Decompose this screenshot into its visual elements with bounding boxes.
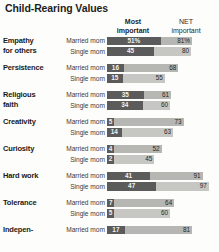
table-row: Married mom1668: [0, 63, 219, 73]
bar-value-net-important: 80: [174, 47, 189, 55]
bar-value-most-important: 47: [107, 182, 156, 190]
bar-track: 764: [107, 199, 174, 208]
bar-track: 3460: [107, 101, 170, 110]
chart-group: Indepen-Married mom1781: [0, 225, 219, 252]
table-row: Married mom3561: [0, 90, 219, 100]
bar-track: 560: [107, 209, 170, 218]
bar-value-net-important: 60: [153, 101, 168, 109]
table-row: Married mom452: [0, 144, 219, 154]
row-label: Single mom: [56, 74, 105, 83]
table-row: Married mom764: [0, 198, 219, 208]
row-label: Single mom: [56, 155, 105, 164]
chart-group: Hard workMarried mom4191Single mom4797: [0, 171, 219, 198]
bar-value-net-important: 81%: [175, 37, 190, 45]
table-row: Single mom1555: [0, 74, 219, 84]
bar-value-most-important: 2: [107, 155, 114, 163]
bar-value-most-important: 45: [107, 47, 154, 55]
table-row: Single mom1463: [0, 128, 219, 138]
bar-value-net-important: 61: [154, 91, 169, 99]
table-row: Married mom573: [0, 117, 219, 127]
column-header-net-important-line1: NET: [160, 18, 212, 27]
bar-track: 4797: [107, 182, 209, 191]
bar-value-most-important: 7: [107, 199, 114, 207]
bar-value-most-important: 14: [107, 128, 122, 136]
bar-value-net-important: 60: [153, 209, 168, 217]
chart-group: ToleranceMarried mom764Single mom560: [0, 198, 219, 225]
chart-group: PersistenceMarried mom1668Single mom1555: [0, 63, 219, 90]
chart-group: Empathyfor othersMarried mom51%81%Single…: [0, 36, 219, 63]
bar-value-most-important: 41: [107, 172, 150, 180]
table-row: Single mom4797: [0, 182, 219, 192]
column-headers: Most important NET important: [0, 18, 219, 38]
bar-value-net-important: 55: [148, 74, 163, 82]
bar-track: 1463: [107, 128, 173, 137]
table-row: Married mom51%81%: [0, 36, 219, 46]
bar-track: 1781: [107, 226, 192, 235]
row-label: Married mom: [56, 90, 105, 99]
row-label: Married mom: [56, 144, 105, 153]
row-label: Married mom: [56, 36, 105, 45]
bar-track: 1555: [107, 74, 165, 83]
bar-track: 4191: [107, 172, 203, 181]
bar-value-net-important: 91: [186, 172, 201, 180]
table-row: Single mom4580: [0, 47, 219, 57]
bar-value-net-important: 68: [161, 64, 176, 72]
column-header-net-important-line2: important: [160, 27, 212, 36]
chart-rows: Empathyfor othersMarried mom51%81%Single…: [0, 36, 219, 252]
bar-value-net-important: 81: [175, 226, 190, 234]
row-label: Single mom: [56, 209, 105, 218]
bar-value-most-important: 34: [107, 101, 143, 109]
bar-track: 245: [107, 155, 154, 164]
row-label: Married mom: [56, 171, 105, 180]
bar-value-net-important: 97: [192, 182, 207, 190]
table-row: Single mom560: [0, 209, 219, 219]
bar-value-net-important: 52: [145, 145, 160, 153]
bar-value-net-important: 64: [157, 199, 172, 207]
table-row: Single mom245: [0, 155, 219, 165]
table-row: Single mom3460: [0, 101, 219, 111]
row-label: Married mom: [56, 225, 105, 234]
chart-group: CreativityMarried mom573Single mom1463: [0, 117, 219, 144]
chart-figure: Child-Rearing Values Most important NET …: [0, 0, 219, 252]
bar-value-net-important: 73: [167, 118, 182, 126]
bar-value-most-important: 15: [107, 74, 123, 82]
bar-value-most-important: 5: [107, 209, 114, 217]
bar-track: 452: [107, 145, 162, 154]
bar-value-most-important: 16: [107, 64, 124, 72]
bar-track: 4580: [107, 47, 191, 56]
row-label: Married mom: [56, 117, 105, 126]
bar-value-most-important: 35: [107, 91, 144, 99]
page-title: Child-Rearing Values: [5, 2, 108, 14]
chart-group: CuriosityMarried mom452Single mom245: [0, 144, 219, 171]
bar-value-net-important: 63: [156, 128, 171, 136]
chart-group: ReligiousfaithMarried mom3561Single mom3…: [0, 90, 219, 117]
bar-value-most-important: 17: [107, 226, 125, 234]
row-label: Single mom: [56, 128, 105, 137]
bar-track: 573: [107, 118, 184, 127]
bar-value-most-important: 4: [107, 145, 114, 153]
row-label: Married mom: [56, 198, 105, 207]
bar-track: 3561: [107, 91, 171, 100]
column-header-most-important: Most important: [110, 18, 156, 35]
bar-value-net-important: 45: [137, 155, 152, 163]
column-header-most-important-line2: important: [110, 27, 156, 36]
bar-track: 51%81%: [107, 37, 192, 46]
row-label: Single mom: [56, 101, 105, 110]
row-label: Single mom: [56, 182, 105, 191]
bar-value-most-important: 5: [107, 118, 114, 126]
table-row: Married mom1781: [0, 225, 219, 235]
table-row: Married mom4191: [0, 171, 219, 181]
column-header-net-important: NET important: [160, 18, 212, 35]
row-label: Single mom: [56, 47, 105, 56]
column-header-most-important-line1: Most: [110, 18, 156, 27]
row-label: Married mom: [56, 63, 105, 72]
bar-track: 1668: [107, 64, 178, 73]
bar-value-most-important: 51%: [107, 37, 161, 45]
